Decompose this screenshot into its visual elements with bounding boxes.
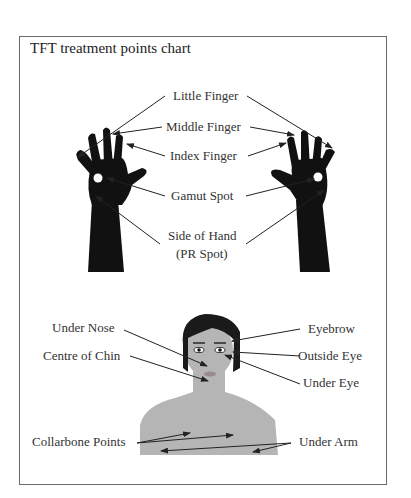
label-side-of-hand: Side of Hand (168, 228, 237, 244)
left-hand-icon (76, 128, 146, 273)
person-figure-icon (140, 314, 278, 455)
label-gamut-spot: Gamut Spot (171, 188, 233, 204)
left-gamut-spot-icon (94, 174, 103, 183)
label-index-finger: Index Finger (170, 148, 237, 164)
label-collarbone-points: Collarbone Points (32, 434, 126, 450)
label-eyebrow: Eyebrow (308, 321, 355, 337)
label-under-nose: Under Nose (52, 320, 114, 336)
right-hand-icon (271, 130, 335, 272)
label-little-finger: Little Finger (173, 88, 238, 104)
label-middle-finger: Middle Finger (166, 119, 241, 135)
label-under-eye: Under Eye (303, 375, 359, 391)
right-gamut-spot-icon (314, 173, 323, 182)
label-outside-eye: Outside Eye (298, 348, 362, 364)
label-centre-of-chin: Centre of Chin (43, 348, 120, 364)
label-pr-spot: (PR Spot) (176, 246, 228, 262)
label-under-arm: Under Arm (299, 434, 358, 450)
